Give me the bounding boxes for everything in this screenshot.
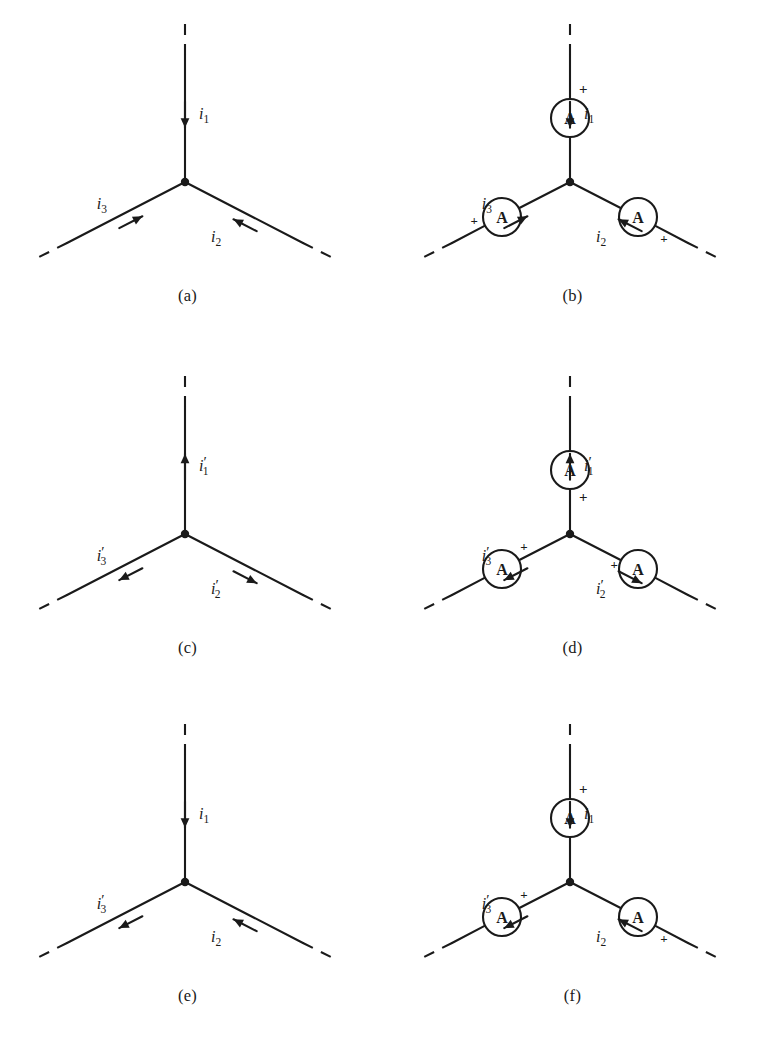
panel-e: i1i′3i2(e) xyxy=(0,700,380,1052)
branch-right-dashed-lead xyxy=(303,943,333,958)
current-label-right: i2 xyxy=(596,929,606,945)
current-label-top: i′1 xyxy=(584,458,597,474)
branch-right-dashed-lead xyxy=(688,243,718,258)
panel-e-caption: (e) xyxy=(0,986,380,1006)
polarity-plus-left: + xyxy=(470,214,477,227)
panel-a: i1i3i2(a) xyxy=(0,0,380,352)
ammeter-left-label: A xyxy=(496,909,508,926)
panel-f-caption: (f) xyxy=(380,986,765,1006)
panel-d-caption: (d) xyxy=(380,638,765,658)
current-label-left: i′3 xyxy=(97,896,110,912)
current-label-right: i′2 xyxy=(596,581,609,597)
branch-left-dashed-lead xyxy=(37,943,67,958)
branch-left-dashed-lead xyxy=(422,943,452,958)
branch-left-wire-outer xyxy=(452,926,485,943)
ammeter-left-label: A xyxy=(496,561,508,578)
polarity-plus-top: + xyxy=(579,490,588,505)
junction-node-dot xyxy=(566,178,574,186)
branch-left-wire xyxy=(67,882,185,943)
panel-d: AAA+i′1+i′3+i′2(d) xyxy=(380,352,765,704)
branch-right-wire xyxy=(185,882,303,943)
branch-left-dashed-lead xyxy=(422,595,452,610)
current-label-left: i′3 xyxy=(482,896,495,912)
current-label-right: i2 xyxy=(596,229,606,245)
branch-left-wire xyxy=(67,182,185,243)
panel-c: i′1i′3i′2(c) xyxy=(0,352,380,704)
polarity-plus-top: + xyxy=(579,782,588,797)
current-label-top: i1 xyxy=(199,106,209,122)
current-label-left: i′3 xyxy=(482,548,495,564)
junction-node-dot xyxy=(181,178,189,186)
current-label-top: i1 xyxy=(199,806,209,822)
polarity-plus-top: + xyxy=(579,82,588,97)
branch-right-dashed-lead xyxy=(688,943,718,958)
branch-left-dashed-lead xyxy=(37,243,67,258)
current-label-left: i3 xyxy=(97,196,107,212)
current-arrow-top-head xyxy=(181,454,190,464)
branch-right-wire-inner xyxy=(570,182,621,208)
junction-node-dot xyxy=(181,878,189,886)
ammeter-right-label: A xyxy=(632,909,644,926)
panel-c-caption: (c) xyxy=(0,638,380,658)
current-label-top: i′1 xyxy=(199,458,212,474)
junction-node-dot xyxy=(566,530,574,538)
branch-right-dashed-lead xyxy=(303,243,333,258)
branch-right-dashed-lead xyxy=(688,595,718,610)
branch-left-wire-inner xyxy=(519,182,570,208)
ammeter-right-label: A xyxy=(632,209,644,226)
branch-right-wire xyxy=(185,182,303,243)
current-label-right: i2 xyxy=(211,229,221,245)
panel-b: AAA+i1+i3+i2(b) xyxy=(380,0,765,352)
polarity-plus-left: + xyxy=(520,888,527,901)
current-arrow-top-head xyxy=(181,118,190,128)
branch-left-dashed-lead xyxy=(37,595,67,610)
polarity-plus-right: + xyxy=(660,232,667,245)
polarity-plus-right: + xyxy=(660,932,667,945)
branch-left-dashed-lead xyxy=(422,243,452,258)
panel-b-caption: (b) xyxy=(380,286,765,306)
panel-a-caption: (a) xyxy=(0,286,380,306)
branch-left-wire-outer xyxy=(452,578,485,595)
branch-right-dashed-lead xyxy=(303,595,333,610)
ammeter-left-label: A xyxy=(496,209,508,226)
branch-left-wire-outer xyxy=(452,226,485,243)
current-label-right: i2 xyxy=(211,929,221,945)
current-arrow-top-head xyxy=(181,818,190,828)
branch-left-wire xyxy=(67,534,185,595)
kirchhoff-node-figure: i1i3i2(a)AAA+i1+i3+i2(b)i′1i′3i′2(c)AAA+… xyxy=(0,0,771,1055)
current-label-top: i1 xyxy=(584,806,594,822)
branch-right-wire-inner xyxy=(570,882,621,908)
current-label-right: i′2 xyxy=(211,581,224,597)
junction-node-dot xyxy=(566,878,574,886)
current-label-left: i′3 xyxy=(97,548,110,564)
current-label-left: i3 xyxy=(482,196,492,212)
branch-right-wire-outer xyxy=(655,578,688,595)
ammeter-right-label: A xyxy=(632,561,644,578)
current-label-top: i1 xyxy=(584,106,594,122)
panel-f: AAA+i1+i′3+i2(f) xyxy=(380,700,765,1052)
polarity-plus-left: + xyxy=(520,540,527,553)
branch-right-wire xyxy=(185,534,303,595)
polarity-plus-right: + xyxy=(611,558,618,571)
junction-node-dot xyxy=(181,530,189,538)
